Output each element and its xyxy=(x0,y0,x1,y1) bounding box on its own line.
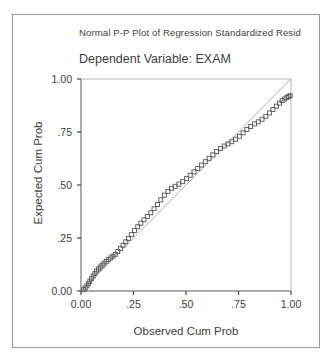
plot-area: 0.00.25.50.751.000.00.25.50.751.00 Expec… xyxy=(13,15,320,348)
y-tick-label: .50 xyxy=(57,179,72,191)
data-point xyxy=(159,198,163,202)
x-tick-label: .75 xyxy=(231,298,246,310)
y-tick-label: 1.00 xyxy=(52,73,73,85)
x-axis-title: Observed Cum Prob xyxy=(81,325,291,337)
x-tick-label: .25 xyxy=(126,298,141,310)
x-tick-label: .50 xyxy=(179,298,194,310)
x-tick-label: 1.00 xyxy=(281,298,302,310)
chart-window: Normal P-P Plot of Regression Standardiz… xyxy=(12,14,320,348)
y-tick-label: 0.00 xyxy=(52,285,73,297)
y-tick-label: .75 xyxy=(57,126,72,138)
y-tick-label: .25 xyxy=(57,232,72,244)
data-series xyxy=(82,94,293,292)
pp-plot-svg: 0.00.25.50.751.000.00.25.50.751.00 xyxy=(13,15,320,348)
data-point xyxy=(155,203,159,207)
y-axis-title: Expected Cum Prob xyxy=(32,103,44,243)
data-point xyxy=(152,207,156,211)
x-tick-label: 0.00 xyxy=(71,298,92,310)
